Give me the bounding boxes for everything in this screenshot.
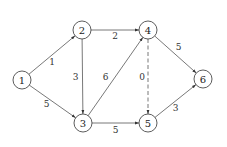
edge-2-3: 3 <box>73 39 83 114</box>
node-1: 1 <box>13 71 31 89</box>
edge-weight-label: 2 <box>112 31 118 41</box>
edge-weight-label: 5 <box>176 42 182 52</box>
node-label: 1 <box>19 75 25 86</box>
node-2: 2 <box>73 21 91 39</box>
edge-weight-label: 5 <box>113 125 119 135</box>
edge-1-2: 1 <box>29 36 75 74</box>
graph-diagram: 152365053 123456 <box>0 0 227 147</box>
edge-4-6: 5 <box>155 36 197 73</box>
edge-3-4: 6 <box>88 37 143 115</box>
edge-2-4: 2 <box>91 30 139 41</box>
node-label: 6 <box>200 74 206 85</box>
edge-weight-label: 3 <box>73 72 79 82</box>
edge-3-5: 5 <box>92 123 139 135</box>
node-3: 3 <box>74 114 92 132</box>
edge-weight-label: 6 <box>103 72 109 82</box>
node-6: 6 <box>194 70 212 88</box>
edge-weight-label: 5 <box>44 99 50 109</box>
edge-weight-label: 0 <box>139 72 145 82</box>
node-label: 4 <box>145 25 151 36</box>
edge-5-6: 3 <box>155 85 196 118</box>
edge-weight-label: 1 <box>49 57 55 67</box>
edge-1-3: 5 <box>29 85 75 118</box>
node-4: 4 <box>139 21 157 39</box>
node-label: 2 <box>79 25 85 36</box>
edge-weight-label: 3 <box>173 103 179 113</box>
edge-4-5: 0 <box>139 39 148 114</box>
node-5: 5 <box>139 114 157 132</box>
node-label: 3 <box>80 118 86 129</box>
node-label: 5 <box>145 118 151 129</box>
